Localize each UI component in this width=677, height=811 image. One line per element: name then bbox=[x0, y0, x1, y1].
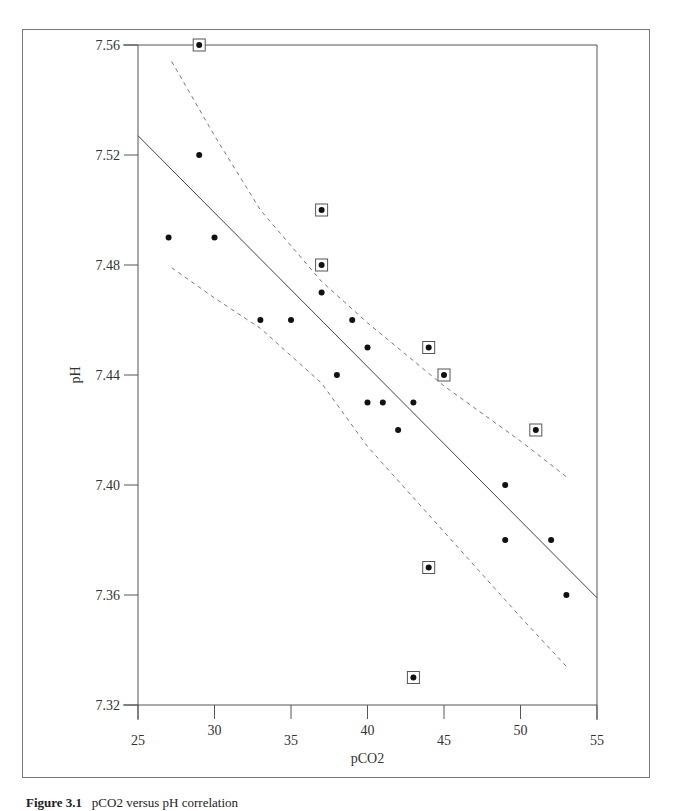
figure-caption: Figure 3.1 pCO2 versus pH correlation bbox=[26, 795, 238, 811]
x-tick-label: 25 bbox=[131, 733, 145, 748]
data-point bbox=[212, 235, 218, 241]
data-points bbox=[166, 39, 570, 684]
data-point bbox=[166, 235, 172, 241]
data-point bbox=[563, 592, 569, 598]
data-point bbox=[365, 345, 371, 351]
regression-line bbox=[138, 136, 597, 598]
x-tick-label: 30 bbox=[208, 723, 222, 738]
axis-labels: 7.327.367.407.447.487.527.56253035404550… bbox=[68, 38, 604, 766]
outlier-point bbox=[319, 207, 325, 213]
data-point bbox=[502, 482, 508, 488]
data-point bbox=[502, 537, 508, 543]
y-tick-label: 7.44 bbox=[96, 368, 121, 383]
data-point bbox=[548, 537, 554, 543]
outlier-point bbox=[196, 42, 202, 48]
data-point bbox=[365, 400, 371, 406]
outlier-point bbox=[410, 675, 416, 681]
y-axis-title: pH bbox=[68, 366, 83, 383]
x-axis-title: pCO2 bbox=[351, 751, 384, 766]
data-point bbox=[410, 400, 416, 406]
y-tick-label: 7.52 bbox=[96, 148, 121, 163]
data-point bbox=[334, 372, 340, 378]
caption-text: pCO2 versus pH correlation bbox=[92, 795, 238, 810]
outlier-point bbox=[533, 427, 539, 433]
x-tick-label: 40 bbox=[361, 723, 375, 738]
outlier-point bbox=[426, 345, 432, 351]
x-tick-label: 45 bbox=[437, 733, 451, 748]
data-point bbox=[288, 317, 294, 323]
x-tick-label: 55 bbox=[590, 733, 604, 748]
outlier-point bbox=[319, 262, 325, 268]
data-point bbox=[257, 317, 263, 323]
outlier-point bbox=[426, 565, 432, 571]
data-point bbox=[196, 152, 202, 158]
confidence-band-line bbox=[172, 62, 567, 477]
fit-lines bbox=[138, 62, 597, 667]
y-tick-label: 7.48 bbox=[96, 258, 121, 273]
data-point bbox=[380, 400, 386, 406]
confidence-band-line bbox=[172, 268, 567, 667]
y-tick-label: 7.56 bbox=[96, 38, 121, 53]
y-tick-label: 7.36 bbox=[96, 588, 121, 603]
x-tick-label: 50 bbox=[514, 723, 528, 738]
outlier-point bbox=[441, 372, 447, 378]
data-point bbox=[349, 317, 355, 323]
data-point bbox=[319, 290, 325, 296]
y-tick-label: 7.32 bbox=[96, 698, 121, 713]
x-tick-label: 35 bbox=[284, 733, 298, 748]
data-point bbox=[395, 427, 401, 433]
y-tick-label: 7.40 bbox=[96, 478, 121, 493]
axes bbox=[123, 45, 597, 720]
caption-label: Figure 3.1 bbox=[26, 795, 82, 810]
